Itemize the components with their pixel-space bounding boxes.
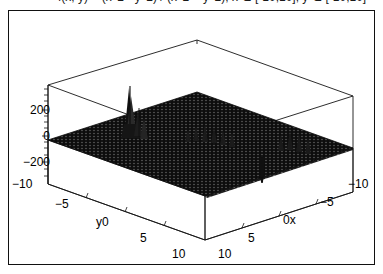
z-axis-tick-neg200: −200 (4, 156, 50, 168)
x-axis-tick-neg10: −10 (348, 178, 368, 190)
y-axis (48, 184, 205, 240)
x-axis-zero-and-name: 0x (283, 214, 296, 226)
z-axis-tick-200: 200 (10, 104, 50, 116)
y-axis-tick-neg10: −10 (12, 178, 32, 190)
x-axis-tick-neg5: −5 (320, 196, 334, 208)
x-axis-tick-10: 10 (218, 248, 231, 260)
x-axis-tick-5: 5 (248, 232, 255, 244)
y-axis-tick-10: 10 (172, 248, 185, 260)
surface-plot-canvas (0, 0, 383, 274)
y-axis-tick-neg5: −5 (55, 198, 69, 210)
y-axis-tick-5: 5 (140, 232, 147, 244)
x-axis-ticks (242, 199, 318, 228)
z-axis-tick-0: 0 (10, 130, 50, 142)
y-axis-name-and-zero: y0 (96, 216, 109, 228)
